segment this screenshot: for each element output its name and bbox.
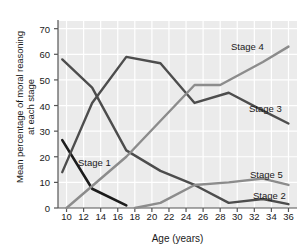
x-axis-title: Age (years) [58,233,297,244]
moral-reasoning-line-chart: Mean percentage of moral reasoning at ea… [0,0,303,252]
series-label-stage-5: Stage 5 [250,169,283,180]
series-label-stage-1: Stage 1 [78,157,111,168]
series-label-stage-2: Stage 2 [253,190,286,201]
plot-area [0,0,303,252]
series-label-stage-3: Stage 3 [249,103,282,114]
series-label-stage-4: Stage 4 [231,41,264,52]
